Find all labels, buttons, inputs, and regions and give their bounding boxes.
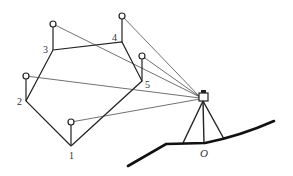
sight-line-3 xyxy=(53,24,200,97)
point-label-2: 2 xyxy=(17,96,22,107)
traverse-diagram: 1 2 3 4 5 O xyxy=(0,0,293,176)
ground-line xyxy=(128,121,274,166)
point-label-4: 4 xyxy=(112,32,117,43)
prism-icon-5 xyxy=(139,53,145,59)
station-label: O xyxy=(200,147,208,159)
point-label-1: 1 xyxy=(69,150,74,161)
point-label-3: 3 xyxy=(43,44,48,55)
total-station-icon xyxy=(183,90,224,144)
sight-line-2 xyxy=(26,76,200,98)
traverse-polygon xyxy=(26,42,142,146)
prism-poles xyxy=(23,13,145,146)
polygon-outline xyxy=(26,42,142,146)
prism-icon-4 xyxy=(119,13,125,19)
point-labels: 1 2 3 4 5 O xyxy=(17,32,208,161)
sight-line-5 xyxy=(142,56,200,97)
sight-line-1 xyxy=(71,99,200,122)
sight-line-4 xyxy=(122,16,200,97)
prism-icon-1 xyxy=(68,119,74,125)
prism-icon-2 xyxy=(23,73,29,79)
prism-icon-3 xyxy=(50,21,56,27)
point-label-5: 5 xyxy=(145,79,150,90)
